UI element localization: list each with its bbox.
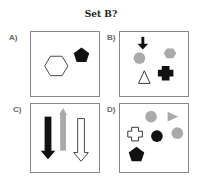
panel-d-label: D): [107, 105, 115, 114]
arrow-up-gray-icon: [59, 108, 67, 151]
panel-b-label: B): [107, 33, 115, 42]
triangle-right-gray-icon: [168, 112, 179, 122]
hexagon-outline-icon: [45, 56, 68, 75]
panel-d[interactable]: [119, 103, 189, 173]
panel-b[interactable]: [119, 31, 189, 97]
arrow-down-outline-icon: [74, 119, 89, 162]
triangle-outline-icon: [138, 71, 150, 84]
panel-c-label: C): [13, 105, 21, 114]
circle-black-icon: [151, 130, 163, 142]
panel-a-label: A): [9, 33, 17, 42]
arrow-down-black-icon: [138, 37, 149, 50]
circle-gray-icon: [145, 111, 157, 123]
circle-gray-icon: [134, 52, 146, 64]
puzzle-title: Set B?: [0, 9, 202, 19]
cross-black-icon: [158, 66, 174, 81]
hexagon-gray-icon: [164, 48, 177, 58]
pentagon-black-icon: [74, 48, 90, 63]
pentagon-black-icon: [129, 147, 145, 162]
cross-outline-icon: [128, 127, 143, 141]
panel-c[interactable]: [30, 103, 100, 173]
circle-gray-icon: [171, 127, 183, 139]
arrow-down-black-icon: [41, 117, 56, 160]
panel-a[interactable]: [30, 31, 100, 97]
